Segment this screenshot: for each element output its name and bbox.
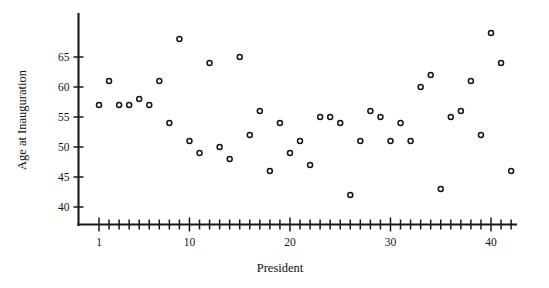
data-point — [227, 157, 232, 162]
chart-figure: 404550556065 110203040 Age at Inaugurati… — [0, 0, 549, 288]
data-point — [257, 109, 262, 114]
data-point — [478, 133, 483, 138]
data-point — [458, 109, 463, 114]
y-tick-label: 60 — [58, 81, 70, 93]
data-point — [499, 61, 504, 66]
data-point — [468, 79, 473, 84]
data-point — [137, 97, 142, 102]
y-tick-label: 50 — [58, 141, 70, 153]
data-point — [167, 121, 172, 126]
data-point — [328, 115, 333, 120]
data-point — [157, 79, 162, 84]
y-tick-label: 45 — [58, 171, 70, 183]
data-point — [247, 133, 252, 138]
x-tick-label: 20 — [284, 236, 296, 248]
y-tick-label: 40 — [58, 201, 70, 213]
y-tick-label: 65 — [58, 51, 70, 63]
x-tick-label: 40 — [485, 236, 497, 248]
data-point — [438, 187, 443, 192]
data-point — [358, 139, 363, 144]
data-point — [197, 151, 202, 156]
data-point — [448, 115, 453, 120]
data-point — [489, 31, 494, 36]
scatter-plot-canvas: 404550556065 110203040 Age at Inaugurati… — [0, 0, 549, 288]
data-point — [368, 109, 373, 114]
x-tick-label: 10 — [184, 236, 196, 248]
data-point — [117, 103, 122, 108]
data-point — [267, 169, 272, 174]
data-point — [107, 79, 112, 84]
data-point — [217, 145, 222, 150]
data-point — [277, 121, 282, 126]
data-point — [338, 121, 343, 126]
data-points-group — [97, 31, 514, 198]
data-point — [177, 37, 182, 42]
data-point — [318, 115, 323, 120]
data-point — [378, 115, 383, 120]
data-point — [509, 169, 514, 174]
data-point — [418, 85, 423, 90]
data-point — [147, 103, 152, 108]
y-tick-label: 55 — [58, 111, 70, 123]
data-point — [187, 139, 192, 144]
data-point — [237, 55, 242, 60]
data-point — [308, 163, 313, 168]
data-point — [398, 121, 403, 126]
x-axis-ticks: 110203040 — [96, 218, 511, 248]
data-point — [408, 139, 413, 144]
data-point — [127, 103, 132, 108]
data-point — [428, 73, 433, 78]
data-point — [348, 193, 353, 198]
x-tick-label: 1 — [96, 236, 102, 248]
data-point — [388, 139, 393, 144]
data-point — [287, 151, 292, 156]
data-point — [298, 139, 303, 144]
y-axis-ticks: 404550556065 — [58, 51, 84, 213]
x-tick-label: 30 — [385, 236, 397, 248]
x-axis-label: President — [257, 261, 304, 275]
data-point — [207, 61, 212, 66]
data-point — [97, 103, 102, 108]
y-axis-label: Age at Inauguration — [15, 69, 29, 170]
